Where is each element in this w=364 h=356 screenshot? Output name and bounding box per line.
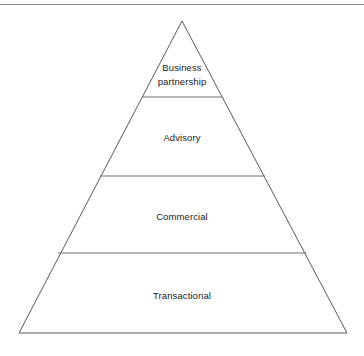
pyramid-graphic bbox=[0, 0, 364, 356]
pyramid-figure: Business partnership Advisory Commercial… bbox=[0, 0, 364, 356]
pyramid-tier-label-transactional: Transactional bbox=[122, 289, 242, 303]
pyramid-tier-label-advisory: Advisory bbox=[122, 131, 242, 145]
pyramid-tier-label-business-partnership: Business partnership bbox=[122, 61, 242, 88]
pyramid-tier-label-commercial: Commercial bbox=[122, 210, 242, 224]
